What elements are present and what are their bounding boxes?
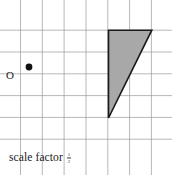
fraction-denominator: 2 (67, 159, 71, 164)
center-of-enlargement-dot (26, 64, 33, 71)
enlargement-diagram: O scale factor 1 2 (0, 0, 172, 175)
shape-layer (0, 0, 172, 175)
scale-factor-fraction: 1 2 (67, 152, 71, 165)
shaded-triangle (109, 30, 152, 118)
scale-factor-annotation: scale factor 1 2 (9, 151, 71, 164)
center-of-enlargement-label: O (6, 70, 14, 81)
scale-factor-label: scale factor (9, 152, 63, 164)
fraction-numerator: 1 (67, 152, 71, 157)
